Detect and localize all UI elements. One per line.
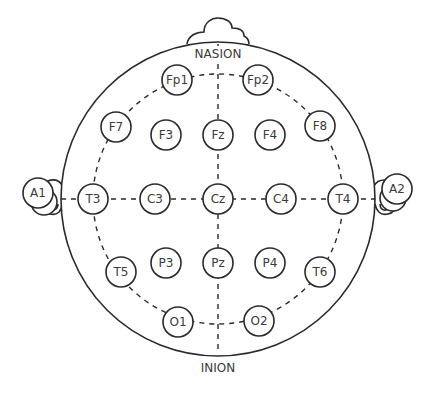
- inion-label: INION: [201, 361, 235, 375]
- electrode-label: Fz: [211, 128, 224, 142]
- electrode-label: Pz: [211, 256, 225, 270]
- electrode-o1: O1: [163, 307, 193, 337]
- electrode-label: C3: [147, 192, 163, 206]
- electrode-label: Fp1: [166, 73, 188, 87]
- electrode-label: F7: [109, 120, 124, 134]
- eeg-10-20-diagram: NASION INION Fp1Fp2F7F3FzF4F8A1T3C3CzC4T…: [0, 0, 435, 396]
- electrode-pz: Pz: [203, 248, 233, 278]
- electrode-label: P3: [159, 256, 174, 270]
- electrode-a2: A2: [380, 174, 412, 211]
- electrode-label: T3: [85, 192, 101, 206]
- electrode-f3: F3: [151, 120, 181, 150]
- electrode-fp2: Fp2: [243, 65, 273, 95]
- electrode-t3: T3: [78, 184, 108, 214]
- electrode-c3: C3: [140, 184, 170, 214]
- electrode-label: A1: [30, 186, 46, 200]
- electrode-f8: F8: [305, 111, 335, 141]
- electrode-t6: T6: [305, 257, 335, 287]
- electrode-p3: P3: [151, 248, 181, 278]
- electrode-t5: T5: [106, 257, 136, 287]
- electrode-c4: C4: [266, 184, 296, 214]
- electrode-label: F8: [313, 119, 328, 133]
- electrode-f4: F4: [255, 120, 285, 150]
- electrode-fz: Fz: [203, 120, 233, 150]
- electrode-label: F4: [263, 128, 278, 142]
- electrode-label: T5: [113, 265, 129, 279]
- electrode-label: C4: [273, 192, 289, 206]
- electrode-label: Fp2: [247, 73, 269, 87]
- electrode-label: O1: [169, 315, 186, 329]
- nose-shape: [187, 18, 249, 44]
- electrode-t4: T4: [328, 184, 358, 214]
- electrode-label: T4: [335, 192, 351, 206]
- electrode-label: T6: [312, 265, 328, 279]
- electrode-o2: O2: [244, 306, 274, 336]
- electrode-label: O2: [250, 314, 267, 328]
- electrode-label: F3: [159, 128, 174, 142]
- nasion-label: NASION: [195, 47, 242, 61]
- electrode-f7: F7: [101, 112, 131, 142]
- electrode-fp1: Fp1: [162, 65, 192, 95]
- electrode-cz: Cz: [203, 184, 233, 214]
- electrode-a1: A1: [23, 178, 57, 215]
- electrode-label: P4: [263, 256, 278, 270]
- electrode-label: A2: [389, 182, 405, 196]
- electrode-p4: P4: [255, 248, 285, 278]
- electrode-label: Cz: [211, 192, 226, 206]
